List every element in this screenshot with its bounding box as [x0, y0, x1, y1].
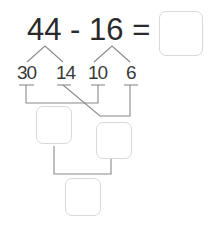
final-answer-box[interactable] [65, 178, 101, 216]
step1-answer-box[interactable] [36, 106, 72, 144]
left-part-2: 14 [56, 62, 75, 84]
right-part-1: 10 [88, 62, 107, 84]
right-part-2: 6 [126, 62, 136, 84]
left-part-1: 30 [17, 62, 36, 84]
connector-lines [0, 0, 209, 229]
step2-answer-box[interactable] [96, 122, 132, 159]
